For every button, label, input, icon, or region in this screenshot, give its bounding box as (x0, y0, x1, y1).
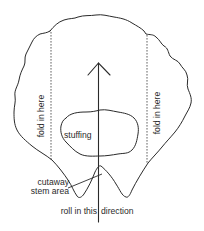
fold-label-left: fold in here (36, 95, 46, 138)
roll-label-right: direction (101, 206, 134, 216)
fold-label-right: fold in here (152, 92, 162, 135)
stuffing-label: stuffing (64, 130, 92, 140)
leaf-stuffing-diagram: fold in here fold in here stuffing cutaw… (0, 0, 204, 231)
cutaway-label-line2: stem area (31, 186, 69, 196)
roll-label-left: roll in this (61, 206, 97, 216)
roll-direction-arrow (88, 63, 110, 222)
cutaway-leader-line (68, 174, 102, 188)
